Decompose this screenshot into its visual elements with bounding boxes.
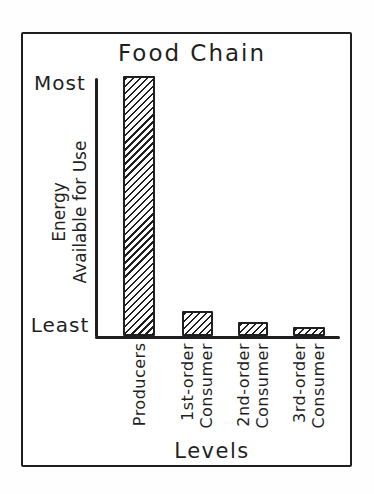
x-axis-line (95, 336, 340, 339)
y-axis-label-line2: Available for Use (70, 141, 90, 284)
figure-page: Food Chain Most Least EnergyAvailable fo… (0, 0, 374, 494)
y-axis-line (95, 78, 98, 337)
ytick-most: Most (28, 71, 92, 95)
x-axis-label: Levels (137, 439, 287, 463)
y-axis-label: EnergyAvailable for Use (49, 122, 91, 302)
bar-2nd-order-consumer (238, 322, 268, 336)
y-axis-label-line1: Energy (49, 182, 69, 242)
bar-producers (123, 76, 155, 336)
bar-3rd-order-consumer (293, 327, 325, 336)
ytick-least: Least (28, 313, 92, 337)
bar-1st-order-consumer (182, 311, 213, 336)
xtick-label-3rd-order-consumer: 3rd-order Consumer (290, 343, 328, 463)
chart-title: Food Chain (87, 40, 297, 66)
